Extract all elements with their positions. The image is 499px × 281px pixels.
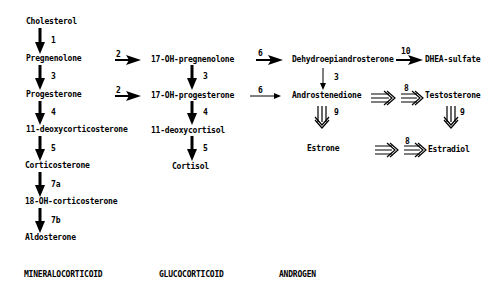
node-aldosterone: Aldosterone [25, 233, 76, 243]
node-dhea-sulfate: DHEA-sulfate [425, 55, 480, 65]
step-label: 2 [116, 50, 121, 60]
step-label: 5 [51, 144, 56, 154]
gluco-arrows [187, 65, 197, 161]
step-label: 2 [116, 86, 121, 96]
step-label: 6 [258, 86, 263, 96]
step-label: 6 [258, 49, 263, 59]
step-label: 4 [51, 108, 56, 118]
node-cortisol: Cortisol [172, 162, 209, 172]
step-label: 9 [460, 108, 465, 118]
category-glucocorticoid: GLUCOCORTICOID [159, 270, 224, 280]
double-arrows-estrone-estradiol [375, 143, 426, 157]
step-label: 9 [334, 108, 339, 118]
node-testosterone: Testosterone [425, 91, 480, 101]
node-11-deoxycorticosterone: 11-deoxycorticosterone [26, 125, 128, 135]
step-label: 7a [51, 180, 61, 190]
step-label: 4 [203, 108, 208, 118]
step-label: 5 [203, 144, 208, 154]
node-17-oh-pregnenolone: 17-OH-pregnenolone [151, 55, 234, 65]
category-androgen: ANDROGEN [279, 270, 316, 280]
step-label: 3 [334, 73, 339, 83]
step-label: 8 [405, 137, 410, 147]
step-label: 10 [401, 47, 411, 57]
node-dehydroepiandrosterone: Dehydroepiandrosterone [292, 55, 394, 65]
step-label: 8 [404, 84, 409, 94]
node-cholesterol: Cholesterol [26, 17, 77, 27]
step-label: 3 [51, 72, 56, 82]
node-11-deoxycortisol: 11-deoxycortisol [151, 126, 225, 136]
step-label: 3 [203, 72, 208, 82]
node-17-oh-progesterone: 17-OH-progesterone [151, 91, 234, 101]
category-mineralocorticoid: MINERALOCORTICOID [24, 270, 102, 280]
node-estradiol: Estradiol [428, 145, 470, 155]
step-label: 1 [51, 36, 56, 46]
node-androstenedione: Androstenedione [292, 91, 361, 101]
node-corticosterone: Corticosterone [25, 161, 90, 171]
node-estrone: Estrone [307, 144, 339, 154]
node-18-oh-corticosterone: 18-OH-corticosterone [25, 197, 117, 207]
node-pregnenolone: Pregnenolone [26, 54, 81, 64]
node-progesterone: Progesterone [26, 90, 81, 100]
double-arrows-andro-testo [371, 91, 423, 105]
step-label: 7b [51, 216, 61, 226]
